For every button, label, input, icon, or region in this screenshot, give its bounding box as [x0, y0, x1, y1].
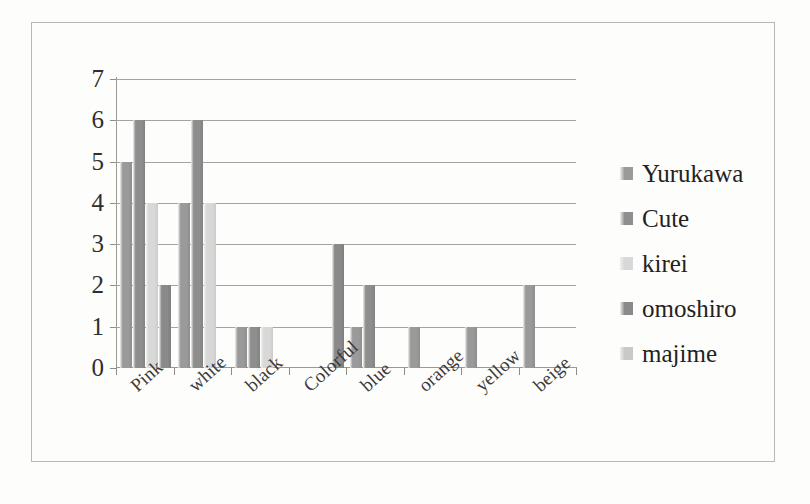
- y-axis-label-3: 3: [92, 231, 105, 256]
- y-tick-4: [110, 203, 116, 204]
- y-tick-7: [110, 79, 116, 80]
- y-axis-label-7: 7: [92, 66, 105, 91]
- chart-legend: YurukawaCutekireiomoshiromajime: [620, 151, 800, 376]
- y-tick-5: [110, 162, 116, 163]
- bar-white-kirei: [204, 203, 216, 368]
- bar-pink-cute: [133, 120, 145, 368]
- bar-beige-yurukawa: [523, 285, 535, 368]
- legend-swatch-icon: [620, 257, 633, 270]
- legend-label: Cute: [642, 206, 689, 231]
- legend-swatch-icon: [620, 212, 633, 225]
- bar-orange-yurukawa: [408, 327, 420, 368]
- y-tick-3: [110, 244, 116, 245]
- chart-frame: 01234567 PinkwhiteblackColorfulblueorang…: [31, 22, 775, 462]
- bar-white-yurukawa: [178, 203, 190, 368]
- y-axis-label-1: 1: [92, 314, 105, 339]
- bar-pink-yurukawa: [120, 162, 132, 368]
- bar-white-cute: [191, 120, 203, 368]
- y-tick-1: [110, 327, 116, 328]
- gridline-7: [116, 79, 576, 80]
- legend-swatch-icon: [620, 167, 633, 180]
- gridline-6: [116, 120, 576, 121]
- legend-label: omoshiro: [642, 296, 736, 321]
- y-axis-label-6: 6: [92, 107, 105, 132]
- bar-blue-cute: [363, 285, 375, 368]
- legend-item-cute[interactable]: Cute: [620, 196, 800, 241]
- legend-item-yurukawa[interactable]: Yurukawa: [620, 151, 800, 196]
- legend-swatch-icon: [620, 302, 633, 315]
- bar-black-yurukawa: [235, 327, 247, 368]
- y-tick-2: [110, 285, 116, 286]
- gridline-5: [116, 162, 576, 163]
- y-axis-label-5: 5: [92, 149, 105, 174]
- plot-area: 01234567: [116, 79, 576, 368]
- bar-pink-omoshiro: [159, 285, 171, 368]
- legend-label: kirei: [642, 251, 688, 276]
- legend-item-omoshiro[interactable]: omoshiro: [620, 286, 800, 331]
- x-axis-labels: PinkwhiteblackColorfulblueorangeyellowbe…: [116, 372, 586, 462]
- bar-pink-kirei: [146, 203, 158, 368]
- legend-label: Yurukawa: [642, 161, 743, 186]
- y-axis-label-4: 4: [92, 190, 105, 215]
- legend-label: majime: [642, 341, 717, 366]
- y-tick-6: [110, 120, 116, 121]
- y-axis-label-0: 0: [92, 355, 105, 380]
- y-axis-label-2: 2: [92, 272, 105, 297]
- legend-item-majime[interactable]: majime: [620, 331, 800, 376]
- bar-black-cute: [248, 327, 260, 368]
- legend-swatch-icon: [620, 347, 633, 360]
- legend-item-kirei[interactable]: kirei: [620, 241, 800, 286]
